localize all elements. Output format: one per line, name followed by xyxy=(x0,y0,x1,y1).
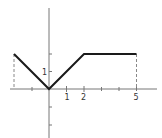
function-line xyxy=(14,54,137,89)
function-graph: 1 2 5 1 xyxy=(0,0,162,138)
x-tick-label-2: 2 xyxy=(81,93,86,102)
y-tick-label-1: 1 xyxy=(42,68,47,77)
x-tick-label-5: 5 xyxy=(134,93,139,102)
x-tick-label-1: 1 xyxy=(65,93,70,102)
